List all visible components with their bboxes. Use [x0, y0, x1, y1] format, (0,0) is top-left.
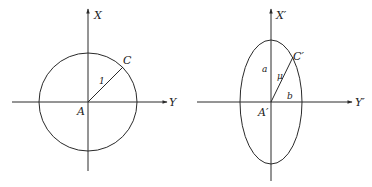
radius-ac — [88, 67, 123, 102]
ellipse-figure: X′ Y′ A′ C′ μ a b — [197, 9, 365, 181]
label-y-axis: Y — [169, 96, 178, 109]
label-semi-axis-a: a — [262, 64, 267, 74]
label-mu: μ — [277, 71, 283, 81]
label-point-c-prime: C′ — [293, 50, 304, 63]
label-y-prime-axis: Y′ — [355, 96, 365, 109]
label-x-prime-axis: X′ — [275, 9, 287, 22]
label-x-axis: X — [93, 9, 103, 22]
label-point-c: C — [123, 54, 132, 67]
label-radius-1: 1 — [99, 76, 105, 86]
circle-figure: X Y A C 1 — [12, 9, 178, 171]
label-center-a: A — [76, 105, 85, 118]
label-center-a-prime: A′ — [257, 106, 269, 119]
label-semi-axis-b: b — [287, 91, 293, 101]
diagram-canvas: X Y A C 1 X′ Y′ A′ C′ μ a b — [0, 0, 372, 187]
